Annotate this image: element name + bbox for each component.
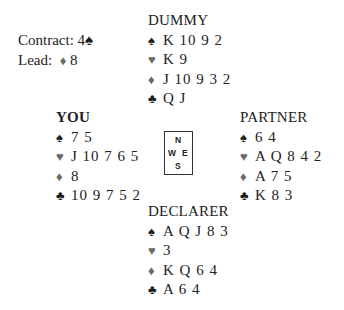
heart-icon: ♥ [56,147,71,167]
club-cards: 10 9 7 5 2 [71,187,141,203]
diamond-cards: J 10 9 3 2 [163,71,231,87]
spade-cards: 6 4 [255,129,277,145]
hand-title: YOU [56,108,141,128]
hand-partner: PARTNER ♠6 4 ♥A Q 8 4 2 ♦A 7 5 ♣K 8 3 [240,108,322,206]
club-icon: ♣ [148,89,163,109]
hand-title: PARTNER [240,108,322,128]
heart-cards: J 10 7 6 5 [71,148,139,164]
heart-icon: ♥ [148,241,163,261]
spade-icon: ♠ [85,32,93,48]
compass-box: N W E S [164,131,193,175]
diamond-icon: ♦ [56,167,71,187]
diamond-icon: ♦ [148,261,163,281]
hand-dummy: DUMMY ♠K 10 9 2 ♥K 9 ♦J 10 9 3 2 ♣Q J [148,11,231,109]
lead-label: Lead: [18,52,52,68]
diamond-icon: ♦ [60,53,67,68]
heart-cards: K 9 [163,51,188,67]
diamond-cards: K Q 6 4 [163,262,218,278]
contract-level: 4 [78,32,86,48]
club-icon: ♣ [240,186,255,206]
hand-you: YOU ♠7 5 ♥J 10 7 6 5 ♦8 ♣10 9 7 5 2 [56,108,141,206]
contract-label: Contract: [18,32,74,48]
club-icon: ♣ [56,186,71,206]
diamond-cards: A 7 5 [255,168,293,184]
hand-title: DUMMY [148,11,231,31]
club-cards: Q J [163,90,186,106]
lead-line: Lead: ♦ 8 [18,51,93,71]
lead-card: 8 [70,52,78,68]
club-cards: A 6 4 [163,281,201,297]
contract-line: Contract: 4♠ [18,31,93,51]
hand-title: DECLARER [148,202,229,222]
spade-icon: ♠ [240,128,255,148]
compass-west: W [168,148,176,158]
hand-declarer: DECLARER ♠A Q J 8 3 ♥3 ♦K Q 6 4 ♣A 6 4 [148,202,229,300]
compass-east: E [182,148,188,158]
spade-cards: A Q J 8 3 [163,223,229,239]
diamond-cards: 8 [71,168,80,184]
spade-icon: ♠ [56,128,71,148]
compass-south: S [175,161,181,171]
compass-north: N [175,135,181,145]
club-cards: K 8 3 [255,187,293,203]
spade-icon: ♠ [148,31,163,51]
spade-cards: K 10 9 2 [163,32,223,48]
heart-icon: ♥ [148,50,163,70]
diamond-icon: ♦ [240,167,255,187]
heart-cards: 3 [163,242,172,258]
contract-info: Contract: 4♠ Lead: ♦ 8 [18,31,93,70]
heart-cards: A Q 8 4 2 [255,148,322,164]
club-icon: ♣ [148,280,163,300]
diamond-icon: ♦ [148,70,163,90]
heart-icon: ♥ [240,147,255,167]
spade-cards: 7 5 [71,129,93,145]
spade-icon: ♠ [148,222,163,242]
